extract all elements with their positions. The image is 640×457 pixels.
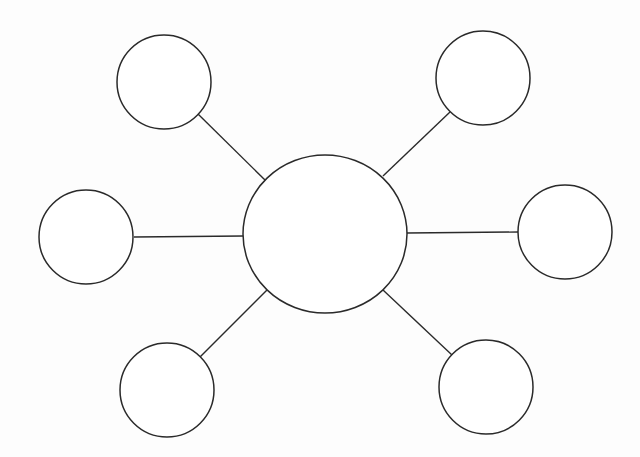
diagram-canvas [0,0,640,457]
node-bottom-right [439,340,533,434]
connector-line-right [407,232,518,233]
node-bottom-left [120,343,214,437]
center-node [243,155,407,313]
node-top-left [117,35,211,129]
connector-line-left [134,236,243,237]
node-top-right [436,31,530,125]
connector-line-bottom-left [200,290,267,357]
connector-line-top-left [198,114,265,180]
node-right [518,185,612,279]
node-left [39,190,133,284]
connector-line-bottom-right [383,290,452,355]
spider-diagram [0,0,640,457]
connector-line-top-right [383,112,450,176]
